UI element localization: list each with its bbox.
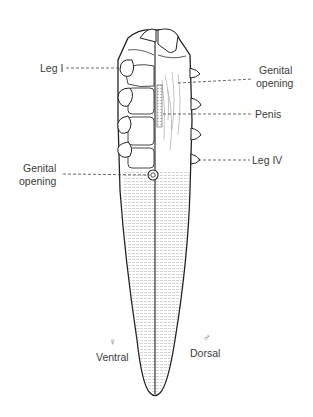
label-leg-i: Leg I xyxy=(40,62,63,74)
label-genital-opening-ventral-line2: opening xyxy=(19,175,56,187)
male-symbol: ♂ xyxy=(203,333,211,343)
female-symbol: ♀ xyxy=(109,337,117,347)
label-genital-opening-dorsal-line1: Genital xyxy=(259,64,292,76)
label-genital-opening-ventral-line1: Genital xyxy=(23,162,56,174)
mite-diagram: Leg I Genital opening Penis Leg IV Genit… xyxy=(0,0,313,417)
label-penis: Penis xyxy=(255,108,281,120)
label-genital-opening-dorsal-line2: opening xyxy=(256,77,293,89)
label-leg-iv: Leg IV xyxy=(252,154,282,166)
label-dorsal: Dorsal xyxy=(190,347,220,359)
label-ventral: Ventral xyxy=(96,351,129,363)
penis-structure xyxy=(157,85,162,127)
